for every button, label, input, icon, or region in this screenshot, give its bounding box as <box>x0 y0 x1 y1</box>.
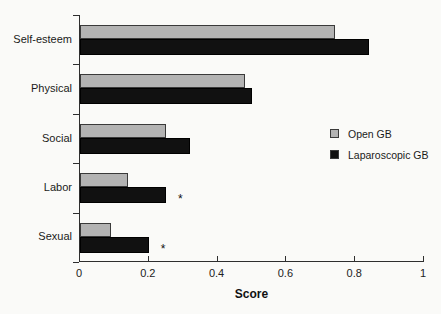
x-axis-tick <box>148 256 149 262</box>
category-label: Self-esteem <box>2 33 72 45</box>
x-axis-tick <box>423 256 424 262</box>
legend-row: Open GB <box>330 123 429 144</box>
x-axis-tick <box>354 256 355 262</box>
bar-open-gb <box>80 74 245 88</box>
y-axis-tick <box>73 15 79 16</box>
x-axis-tick-label: 0.4 <box>200 267 234 279</box>
bar-open-gb <box>80 223 111 237</box>
category-label: Sexual <box>2 230 72 242</box>
bar-open-gb <box>80 25 335 39</box>
x-axis-tick-label: 0.6 <box>268 267 302 279</box>
x-axis-tick-label: 0.8 <box>337 267 371 279</box>
legend-label: Open GB <box>348 128 392 140</box>
bar-chart-figure: Score Open GBLaparoscopic GB 00.20.40.60… <box>0 0 441 314</box>
x-axis-tick <box>79 256 80 262</box>
x-axis-tick <box>285 256 286 262</box>
legend-row: Laparoscopic GB <box>330 144 429 165</box>
bar-laparoscopic-gb <box>80 237 149 253</box>
y-axis-tick <box>73 64 79 65</box>
x-axis-title: Score <box>79 287 424 301</box>
x-axis-tick-label: 0.2 <box>131 267 165 279</box>
bar-laparoscopic-gb <box>80 138 190 154</box>
y-axis-tick <box>73 114 79 115</box>
bar-laparoscopic-gb <box>80 187 166 203</box>
bar-laparoscopic-gb <box>80 88 252 104</box>
bar-open-gb <box>80 173 128 187</box>
significance-asterisk: * <box>161 243 166 255</box>
y-axis-tick <box>73 163 79 164</box>
legend-label: Laparoscopic GB <box>348 149 429 161</box>
x-axis-tick <box>217 256 218 262</box>
y-axis-tick <box>73 262 79 263</box>
y-axis-tick <box>73 213 79 214</box>
x-axis-tick-label: 1 <box>406 267 440 279</box>
legend-swatch-icon <box>330 150 339 159</box>
x-axis-tick-label: 0 <box>62 267 96 279</box>
bar-laparoscopic-gb <box>80 39 369 55</box>
category-label: Social <box>2 132 72 144</box>
bar-open-gb <box>80 124 166 138</box>
legend-swatch-icon <box>330 129 339 138</box>
significance-asterisk: * <box>178 193 183 205</box>
legend: Open GBLaparoscopic GB <box>330 123 429 165</box>
category-label: Physical <box>2 82 72 94</box>
category-label: Labor <box>2 181 72 193</box>
x-axis-line <box>79 261 424 262</box>
